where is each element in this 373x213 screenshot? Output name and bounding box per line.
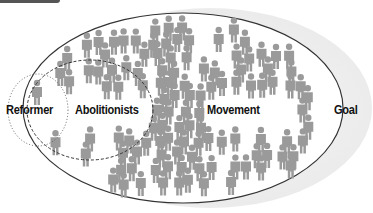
goal-label: Goal (334, 102, 358, 117)
movement-label: Movement (207, 102, 260, 117)
abolitionists-label: Abolitionists (75, 102, 139, 117)
nested-sets-diagram (0, 0, 373, 213)
reformer-label: Reformer (6, 102, 53, 117)
